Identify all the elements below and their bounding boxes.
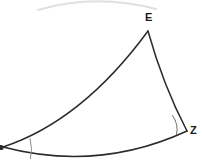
vertex-label-E: E: [145, 12, 152, 23]
edge-D-E: [3, 31, 148, 147]
figure-canvas: [0, 0, 202, 162]
edge-E-Z: [148, 31, 187, 131]
angle-mark-Z: [173, 116, 178, 135]
angle-mark-D: [30, 139, 32, 159]
vertex-dot-D: [0, 145, 4, 150]
faint-top-arc: [38, 1, 156, 10]
vertex-label-Z: Z: [190, 125, 197, 136]
geometry-figure: E Z: [0, 0, 202, 162]
edge-D-Z: [3, 131, 187, 156]
